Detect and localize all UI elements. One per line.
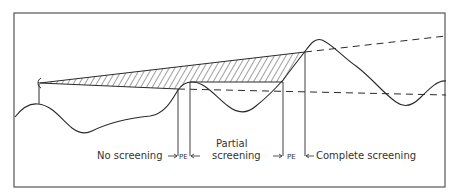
label-partial-2: screening bbox=[212, 150, 261, 161]
terrain-profile bbox=[15, 39, 446, 132]
upper-ray-extension bbox=[305, 36, 446, 52]
label-partial-1: Partial bbox=[216, 138, 247, 149]
label-pe-2: PE bbox=[287, 153, 296, 161]
lower-ray-extension bbox=[178, 89, 446, 95]
screening-diagram bbox=[0, 0, 460, 195]
arrow-left-icon bbox=[191, 154, 200, 158]
screened-region-hatch bbox=[40, 52, 305, 89]
arrow-right-icon bbox=[273, 154, 282, 158]
label-no-screening: No screening bbox=[97, 150, 162, 161]
label-complete-screening: Complete screening bbox=[316, 150, 416, 161]
arrow-right-icon bbox=[168, 154, 177, 158]
arrow-left-icon bbox=[306, 154, 314, 158]
label-pe-1: PE bbox=[179, 153, 188, 161]
